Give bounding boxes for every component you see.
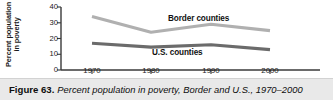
x-tick-label-2000: 2000: [253, 66, 287, 75]
x-tick-labels: 1970 1980 1990 2000: [0, 0, 333, 78]
figure-container: Percent population in poverty 40 30 20 1…: [0, 0, 333, 100]
x-tick-label-1970: 1970: [75, 66, 109, 75]
series-label-us-counties: U.S. counties: [152, 48, 203, 57]
figure-caption-bar: Figure 63. Percent population in poverty…: [0, 78, 333, 100]
figure-caption-text: Percent population in poverty, Border an…: [57, 84, 302, 95]
x-tick-label-1990: 1990: [194, 66, 228, 75]
chart-plot-area: Percent population in poverty 40 30 20 1…: [0, 0, 333, 78]
figure-caption-label: Figure 63.: [9, 84, 54, 95]
x-tick-label-1980: 1980: [134, 66, 168, 75]
series-label-border-counties: Border counties: [168, 14, 229, 23]
